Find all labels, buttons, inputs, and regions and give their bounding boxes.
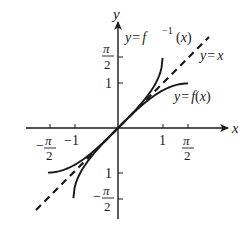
x-tick-label-neg-pi-half: − π 2: [36, 133, 56, 163]
svg-text:2: 2: [46, 148, 53, 163]
y-axis-label: y: [111, 6, 120, 22]
label-f: y=f(x): [172, 89, 211, 105]
x-tick-label-pi-half: π 2: [182, 133, 194, 163]
svg-text:2: 2: [184, 148, 191, 163]
svg-text:π: π: [45, 133, 52, 148]
svg-text:−1: −1: [162, 25, 173, 36]
svg-text:−: −: [36, 138, 44, 153]
inverse-function-diagram: x y − π 2 −1 1 π 2: [0, 0, 238, 228]
y-tick-label-one: 1: [105, 76, 112, 91]
label-f-inverse: y=f −1 (x): [123, 25, 192, 46]
svg-text:y=f: y=f: [123, 30, 148, 45]
x-axis-label: x: [231, 120, 238, 136]
svg-text:2: 2: [104, 199, 111, 214]
svg-text:π: π: [103, 183, 110, 198]
y-tick-label-neg-one: 1: [105, 166, 112, 181]
label-identity: y=x: [198, 48, 224, 63]
svg-text:y=f(x): y=f(x): [172, 89, 211, 105]
svg-text:−: −: [93, 189, 101, 204]
svg-text:y=x: y=x: [198, 48, 224, 63]
y-tick-label-pi-half: π 2: [102, 41, 114, 72]
svg-text:π: π: [103, 41, 110, 56]
x-tick-label-neg-one: −1: [64, 133, 79, 148]
x-tick-label-one: 1: [159, 133, 166, 148]
svg-text:(x): (x): [176, 30, 192, 46]
svg-text:π: π: [183, 133, 190, 148]
svg-text:2: 2: [104, 57, 111, 72]
y-tick-label-neg-pi-half: − π 2: [93, 183, 114, 214]
